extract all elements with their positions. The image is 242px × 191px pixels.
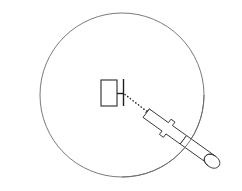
probe-end-cap	[204, 154, 220, 168]
boundary-circle	[40, 13, 204, 177]
figure-root: Line art diagram: a large thin circle co…	[0, 0, 242, 191]
specimen-rectangle	[101, 80, 117, 106]
beam-dotted-line	[125, 95, 147, 112]
technical-drawing-canvas	[0, 0, 242, 191]
probe-barrel-front	[143, 109, 187, 144]
probe-tool	[143, 109, 220, 168]
